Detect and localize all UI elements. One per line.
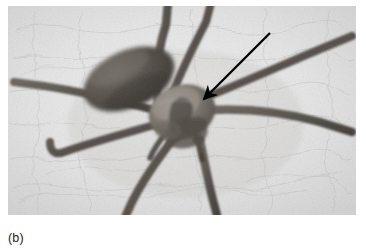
photo-grain-overlay bbox=[8, 6, 356, 215]
spider-photograph bbox=[8, 6, 356, 215]
figure-caption: (b) bbox=[8, 230, 24, 246]
photograph-canvas bbox=[8, 6, 356, 215]
figure-container: (b) bbox=[0, 0, 366, 252]
